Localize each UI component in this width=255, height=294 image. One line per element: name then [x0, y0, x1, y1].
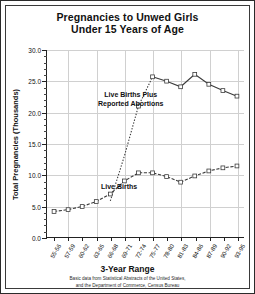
series-lower-marker [221, 166, 225, 170]
x-tick-label: 60-62 [78, 243, 91, 259]
series-lower-marker [207, 169, 211, 173]
x-tick-label: 63-65 [92, 243, 105, 259]
x-tick [82, 237, 83, 241]
chart-figure: Pregnancies to Unwed Girls Under 15 Year… [0, 0, 255, 294]
x-tick [153, 237, 154, 241]
source-note-line-2: and the Department of Commerce, Census B… [6, 283, 249, 290]
series-upper-marker [165, 79, 169, 83]
x-tick [196, 237, 197, 241]
x-axis-title: 3-Year Range [6, 264, 249, 274]
x-tick-label: 66-68 [106, 243, 119, 259]
series-layer [47, 50, 244, 237]
x-tick [54, 237, 55, 241]
series-upper-marker [151, 75, 155, 79]
x-tick-label: 90-92 [219, 243, 232, 259]
x-tick [181, 237, 182, 241]
x-tick [238, 237, 239, 241]
series-lower-marker [151, 171, 155, 175]
series-upper-marker [207, 82, 211, 86]
series-lower-marker [94, 200, 98, 204]
x-tick-label: 69-71 [120, 243, 133, 259]
x-tick-label: 93-95 [233, 243, 246, 259]
series-lower-marker [137, 171, 141, 175]
series-label-upper-line-1: Live Births Plus [98, 90, 163, 99]
x-tick [224, 237, 225, 241]
x-tick [125, 237, 126, 241]
series-lower-marker [108, 192, 112, 196]
series-label-upper: Live Births Plus Reported Abortions [98, 90, 163, 108]
series-lower-marker [165, 175, 169, 179]
x-tick-label: 84-86 [191, 243, 204, 259]
x-tick-label: 75-77 [148, 243, 161, 259]
series-lower-marker [193, 174, 197, 178]
x-tick [111, 237, 112, 241]
series-label-lower: Live Births [101, 182, 137, 191]
y-tick-label: 30.0 [28, 47, 41, 54]
plot-wrapper: 0.05.010.015.020.025.030.0 55-5657-5960-… [46, 50, 244, 238]
y-axis-title: Total Pregnancies (Thousands) [10, 50, 22, 238]
x-tick-label: 55-56 [49, 243, 62, 259]
series-lower-marker [52, 210, 56, 214]
y-tick-label: 5.0 [32, 203, 41, 210]
x-tick [167, 237, 168, 241]
series-upper-marker [235, 94, 239, 98]
series-upper-marker [179, 85, 183, 89]
y-tick-label: 0.0 [32, 235, 41, 242]
chart-title-line-2: Under 15 Years of Age [6, 23, 249, 35]
series-upper-solid-path [153, 74, 237, 96]
x-tick [97, 237, 98, 241]
series-lower-marker [80, 205, 84, 209]
y-tick-label: 20.0 [28, 109, 41, 116]
x-tick [68, 237, 69, 241]
y-tick-label: 10.0 [28, 172, 41, 179]
series-label-upper-line-2: Reported Abortions [98, 99, 163, 108]
chart-title: Pregnancies to Unwed Girls Under 15 Year… [6, 11, 249, 35]
x-tick-label: 87-89 [205, 243, 218, 259]
series-upper-marker [221, 89, 225, 93]
x-tick-label: 78-80 [163, 243, 176, 259]
y-tick-label: 15.0 [28, 141, 41, 148]
x-tick [139, 237, 140, 241]
series-lower-marker [66, 208, 70, 212]
chart-title-line-1: Pregnancies to Unwed Girls [6, 11, 249, 23]
x-tick-label: 81-83 [177, 243, 190, 259]
x-tick [210, 237, 211, 241]
plot-area: 0.05.010.015.020.025.030.0 55-5657-5960-… [46, 50, 244, 238]
y-tick-label: 25.0 [28, 78, 41, 85]
y-tick [42, 238, 47, 239]
y-axis-title-text: Total Pregnancies (Thousands) [12, 88, 21, 199]
source-note: Basic data from Statistical Abstracts of… [6, 276, 249, 289]
series-lower-marker [179, 180, 183, 184]
series-upper-marker [193, 72, 197, 76]
x-tick-label: 57-59 [64, 243, 77, 259]
series-lower-marker [235, 164, 239, 168]
series-label-lower-line-1: Live Births [101, 182, 137, 191]
chart-inner-frame: Pregnancies to Unwed Girls Under 15 Year… [5, 5, 250, 289]
x-tick-label: 72-74 [134, 243, 147, 259]
